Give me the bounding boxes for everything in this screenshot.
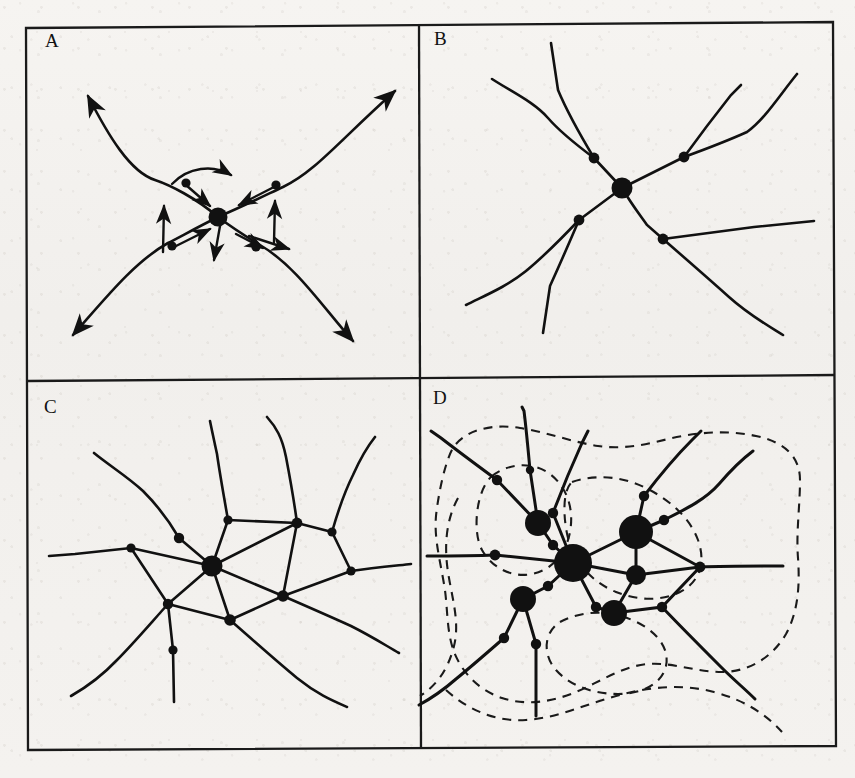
- network-edge: [228, 520, 297, 523]
- network-node: [490, 550, 501, 561]
- panel-a-branches: [73, 91, 395, 341]
- network-edge: [168, 604, 230, 620]
- leaf-line: [173, 650, 174, 702]
- leaf-line: [466, 220, 579, 305]
- network-node: [499, 633, 509, 643]
- panel-b-nodes: [574, 152, 690, 245]
- hub-node-lower-left: [510, 586, 536, 612]
- network-node: [492, 475, 502, 485]
- four-panel-diagram-canvas: [0, 0, 855, 778]
- panel-a-group: [73, 91, 395, 341]
- network-node: [292, 518, 303, 529]
- hub-node-center: [554, 544, 592, 582]
- figure-frame: [26, 22, 836, 750]
- leaf-line: [210, 421, 228, 520]
- leaf-line: [283, 596, 399, 653]
- leaf-line: [553, 431, 588, 513]
- hub-node: [612, 178, 633, 199]
- branch-node: [167, 241, 176, 250]
- hub-node-mid-right: [626, 565, 646, 585]
- leaf-line: [522, 407, 530, 470]
- network-edge: [297, 523, 332, 532]
- secondary-node: [574, 215, 585, 226]
- panel-label-b: B: [434, 29, 447, 48]
- leaf-line: [663, 239, 783, 335]
- panel-label-d: D: [433, 388, 447, 407]
- hub-node-lower-mid: [601, 600, 627, 626]
- panel-c-nodes: [126, 515, 355, 654]
- panel-label-a: A: [45, 31, 59, 50]
- inflow-upper-right-arrow: [239, 188, 272, 205]
- leaf-line: [71, 604, 168, 696]
- leaf-line: [419, 638, 504, 705]
- outflow-down-arrow: [214, 226, 220, 260]
- network-node: [163, 599, 173, 609]
- outer-catchment-boundary: [436, 427, 800, 703]
- secondary-node: [589, 153, 600, 164]
- panel-d-group: [419, 407, 800, 732]
- branch-node: [181, 178, 190, 187]
- leaf-line: [663, 221, 814, 239]
- network-node: [659, 515, 669, 525]
- leaf-line: [662, 607, 755, 699]
- panel-d-links: [419, 407, 783, 716]
- branch-node: [251, 242, 260, 251]
- branch-ne: [218, 91, 395, 217]
- leaf-line: [332, 437, 375, 532]
- network-node: [591, 602, 601, 612]
- network-edge: [131, 548, 168, 604]
- network-node: [174, 533, 184, 543]
- vertical-up-right-arrow: [274, 201, 275, 242]
- secondary-node: [679, 152, 690, 163]
- network-edge: [332, 532, 351, 571]
- network-node: [168, 645, 177, 654]
- leaf-line: [431, 431, 497, 480]
- vertical-up-left-arrow: [163, 206, 164, 252]
- network-edge: [168, 604, 173, 650]
- network-node: [531, 639, 541, 649]
- network-node: [639, 491, 649, 501]
- network-node: [543, 581, 553, 591]
- hub-node: [209, 208, 228, 227]
- leaf-line: [492, 79, 594, 158]
- network-node: [277, 590, 289, 602]
- network-node: [126, 543, 135, 552]
- panel-label-c: C: [44, 397, 57, 416]
- panel-b-links: [466, 43, 814, 335]
- network-node: [695, 562, 706, 573]
- catchment-lower-mid: [547, 613, 667, 694]
- network-node: [548, 508, 558, 518]
- branch-nw: [88, 96, 218, 217]
- network-edge: [212, 566, 283, 596]
- leaf-line: [644, 431, 701, 496]
- network-node: [327, 527, 336, 536]
- leaf-line: [351, 564, 411, 571]
- curved-flow-arrow: [172, 169, 231, 184]
- hub-node-upper-right: [619, 515, 653, 549]
- network-node: [224, 614, 236, 626]
- catchment-left-edge: [420, 498, 458, 696]
- leaf-line: [427, 555, 495, 556]
- leaf-line: [700, 566, 783, 567]
- figure-root: A B C D: [0, 0, 855, 778]
- hub-node-upper-left: [525, 510, 551, 536]
- network-node: [346, 566, 355, 575]
- leaf-line: [94, 453, 179, 538]
- network-node: [657, 602, 667, 612]
- network-node: [223, 515, 232, 524]
- secondary-node: [658, 234, 669, 245]
- hub-node: [202, 556, 223, 577]
- leaf-line: [49, 548, 131, 556]
- panel-c-group: [49, 417, 411, 707]
- panel-b-group: [466, 43, 814, 335]
- leaf-line: [267, 417, 297, 523]
- network-edge: [230, 596, 283, 620]
- network-edge: [283, 523, 297, 596]
- branch-node: [271, 180, 280, 189]
- network-edge: [283, 571, 351, 596]
- leaf-line: [230, 620, 347, 707]
- panel-c-links: [49, 417, 411, 707]
- network-node: [526, 466, 534, 474]
- network-node: [548, 540, 558, 550]
